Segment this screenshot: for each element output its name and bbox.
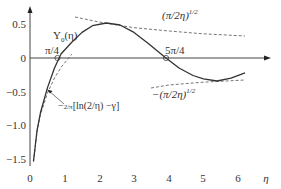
y-tick-label: −1.5: [0, 154, 26, 165]
log-asymptote-label: −2/π[ln(2/η) −γ]: [58, 101, 119, 111]
y-tick-label: 0.5: [0, 19, 26, 30]
pi4-label: π/4: [45, 45, 59, 56]
x-tick-label: 3: [127, 173, 141, 184]
y0-label: Y0(η): [53, 30, 78, 44]
x-axis-label: η: [259, 173, 273, 184]
log-asymptote-body: [ln(2/η) −γ]: [73, 100, 120, 111]
upper-envelope-exponent: 1/2: [189, 8, 198, 16]
lower-envelope-label: −(π/2η)1/2: [152, 88, 195, 100]
x-tick-label: 2: [93, 173, 107, 184]
lower-envelope-exponent: 1/2: [186, 87, 195, 95]
y0-label-arg: (η): [64, 29, 77, 41]
x-tick-label: 1: [58, 173, 72, 184]
plot-area: [0, 0, 281, 189]
y0-label-symbol: Y: [53, 29, 61, 41]
y-axis-arrow-icon: [28, 6, 33, 13]
upper-envelope-label: (π/2η)1/2: [162, 9, 198, 21]
upper-envelope-line: [75, 17, 245, 36]
y-tick-label: −0.5: [0, 87, 26, 98]
x-tick-label: 4: [162, 173, 176, 184]
y-tick-label: −1.0: [0, 120, 26, 131]
x-tick-label: 6: [231, 173, 245, 184]
x-tick-label: 0: [23, 173, 37, 184]
lower-envelope-text: −(π/2η): [152, 88, 186, 100]
x-axis-arrow-icon: [264, 56, 271, 61]
upper-envelope-text: (π/2η): [162, 9, 189, 21]
log-asymptote-fraction: 2/π: [64, 103, 73, 111]
x-tick-label: 5: [196, 173, 210, 184]
y-tick-label: 0: [0, 53, 26, 64]
5pi4-label: 5π/4: [165, 45, 185, 56]
